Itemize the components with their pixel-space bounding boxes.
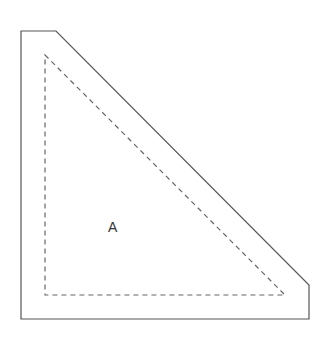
inner-dashed-triangle	[45, 55, 285, 295]
diagram-canvas: A	[0, 0, 330, 342]
diagram-svg: A	[0, 0, 330, 342]
region-label: A	[108, 219, 118, 235]
